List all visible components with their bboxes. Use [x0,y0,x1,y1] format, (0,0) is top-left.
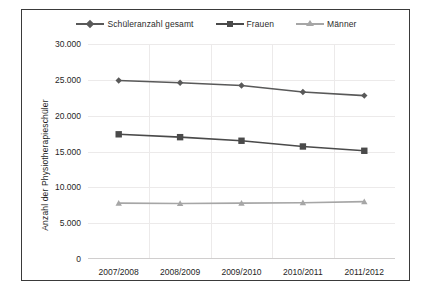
data-point-square [300,143,306,149]
legend-item-total[interactable]: Schüleranzahl gesamt [76,19,193,29]
legend-item-frauen[interactable]: Frauen [216,19,275,29]
data-point-square [238,138,244,144]
y-axis-tick-label: 15.000 [25,147,88,157]
data-point-diamond [116,77,122,83]
y-axis-tick-label: 0 [25,254,88,264]
y-axis-tick-label: 25.000 [25,75,88,85]
data-point-diamond [300,89,306,95]
y-axis-tick-label: 30.000 [25,39,88,49]
data-point-diamond [238,82,244,88]
square-marker-icon [227,21,233,27]
x-axis-tick-label: 2009/2010 [221,259,261,277]
data-point-diamond [177,80,183,86]
chart-frame: Schüleranzahl gesamt Frauen Männer Anzah… [21,9,410,281]
x-axis-tick-label: 2011/2012 [345,259,385,277]
data-point-square [177,134,183,140]
legend-swatch-maenner [296,19,324,29]
series-layer [88,44,395,259]
x-axis-tick-label: 2008/2009 [160,259,200,277]
diamond-marker-icon [86,20,94,28]
x-axis-tick-label: 2007/2008 [99,259,139,277]
y-axis-tick-label: 5.000 [25,218,88,228]
chart-legend: Schüleranzahl gesamt Frauen Männer [22,19,411,29]
legend-swatch-frauen [216,19,244,29]
data-point-square [361,148,367,154]
legend-label-total: Schüleranzahl gesamt [107,19,193,29]
x-axis-tick-label: 2010/2011 [283,259,323,277]
y-axis-tick-label: 10.000 [25,182,88,192]
legend-item-maenner[interactable]: Männer [296,19,356,29]
data-point-square [116,131,122,137]
y-axis-tick-label: 20.000 [25,111,88,121]
legend-swatch-total [76,19,104,29]
plot-area: 30.00025.00020.00015.00010.0005.0000 200… [88,44,395,259]
legend-label-frauen: Frauen [247,19,275,29]
triangle-marker-icon [306,20,314,26]
data-point-diamond [361,92,367,98]
legend-label-maenner: Männer [327,19,356,29]
